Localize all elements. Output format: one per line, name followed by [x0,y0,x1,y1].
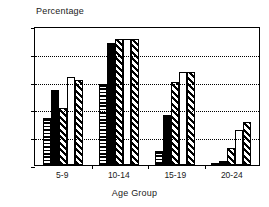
x-axis-label: 15-19 [147,170,204,180]
bar [155,151,163,165]
bar [43,118,51,165]
y-axis-tick [31,28,35,29]
bar-group [203,28,259,165]
y-axis-tick [31,139,35,140]
bar [171,82,179,165]
x-axis-tick [92,165,93,169]
bar [51,90,59,165]
bar [123,39,131,165]
x-axis-label: 10-14 [91,170,148,180]
bar-group [35,28,91,165]
y-axis-tick [31,56,35,57]
bar [75,80,83,165]
plot-area [34,27,260,166]
bar-group [147,28,203,165]
y-axis-title: Percentage [36,6,84,16]
x-axis-tick [148,165,149,169]
bar [235,130,243,165]
y-axis-tick [31,84,35,85]
bar-groups [35,28,259,165]
bar [115,39,123,165]
bar [187,72,195,165]
bar [243,122,251,165]
x-axis-label: 5-9 [34,170,91,180]
bar [99,84,107,165]
bar-chart: Percentage 020406080100 5-910-1415-1920-… [0,0,269,207]
gridline [35,111,259,112]
bar [59,108,67,165]
bar [67,77,75,165]
bar [179,72,187,165]
bar [211,163,219,165]
y-axis-tick [31,111,35,112]
bar [131,39,139,165]
y-axis-tick [31,167,35,168]
bar [219,161,227,165]
gridline [35,84,259,85]
x-axis-title: Age Group [0,188,269,198]
bar [107,43,115,165]
x-axis-tick [205,165,206,169]
bar [227,148,235,165]
bar-group [91,28,147,165]
gridline [35,139,259,140]
gridline [35,56,259,57]
x-axis-label: 20-24 [204,170,261,180]
